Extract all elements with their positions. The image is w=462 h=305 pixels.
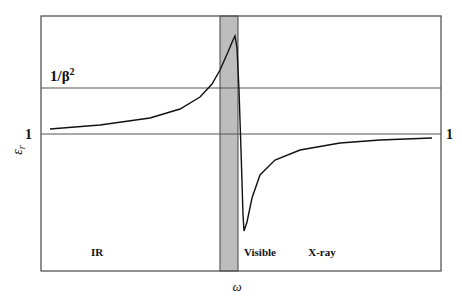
y-axis-label: εr <box>10 145 27 155</box>
x-axis-label: ω <box>232 279 241 294</box>
region-label-xray: X-ray <box>308 246 336 258</box>
region-label-ir: IR <box>91 246 104 258</box>
svg-text:εr: εr <box>10 145 27 155</box>
region-label-visible: Visible <box>244 246 276 258</box>
chart: 1/β2 1 1 εr ω IR Visible X-ray <box>0 0 462 305</box>
label-one-left: 1 <box>25 127 32 142</box>
label-one-right: 1 <box>446 127 453 142</box>
resonance-band <box>220 16 238 271</box>
label-1-over-beta-squared: 1/β2 <box>50 66 75 84</box>
